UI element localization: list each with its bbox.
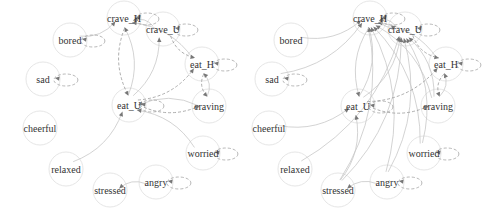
edge-craving-to-eat_U: [138, 98, 198, 106]
node-label-bored: bored: [280, 35, 303, 46]
node-label-angry: angry: [376, 177, 399, 188]
arrowhead-icon: [157, 38, 161, 43]
node-label-crave_H: crave_H: [353, 13, 387, 24]
node-label-eat_U: eat_U: [117, 100, 142, 111]
edge-eat_U-to-crave_U: [133, 38, 159, 96]
arrowhead-icon: [119, 112, 123, 117]
edge-craving-to-crave_U: [409, 38, 434, 97]
self-loop-sad: [54, 74, 78, 86]
node-label-craving: craving: [194, 101, 224, 112]
node-label-crave_H: crave_H: [107, 13, 141, 24]
edge-relaxed-to-crave_U: [301, 36, 399, 161]
node-label-crave_U: crave_U: [146, 24, 181, 35]
edge-eat_U-to-crave_H: [359, 27, 372, 96]
edge-eat_U-to-crave_U: [363, 37, 400, 97]
node-label-craving: craving: [423, 101, 453, 112]
edge-eat_U-to-eat_H: [138, 69, 194, 100]
arrowhead-icon: [204, 73, 209, 78]
self-loop-eat_U: [140, 100, 164, 112]
node-label-cheerful: cheerful: [24, 123, 57, 134]
node-label-sad: sad: [36, 74, 49, 85]
node-label-eat_H: eat_H: [434, 59, 458, 70]
node-label-bored: bored: [59, 35, 82, 46]
self-loop-eat_H: [457, 59, 481, 71]
edge-bored-to-crave_H: [79, 22, 115, 37]
node-label-worried: worried: [187, 148, 218, 159]
node-label-relaxed: relaxed: [280, 164, 309, 175]
network-diagram: crave_Hcrave_Uboredeat_Hsadeat_Ucravingc…: [0, 0, 489, 212]
node-label-cheerful: cheerful: [253, 123, 286, 134]
node-label-stressed: stressed: [322, 185, 354, 196]
node-label-stressed: stressed: [94, 185, 126, 196]
edge-angry-to-crave_H: [371, 27, 394, 172]
self-loop-angry: [167, 177, 191, 189]
node-label-crave_U: crave_U: [388, 24, 423, 35]
node-label-eat_U: eat_U: [346, 101, 371, 112]
edge-crave_U-to-eat_H: [413, 36, 439, 58]
node-label-angry: angry: [145, 177, 168, 188]
arrowhead-icon: [203, 92, 208, 97]
left-network-graph: crave_Hcrave_Uboredeat_Hsadeat_Ucravingc…: [23, 1, 238, 207]
edge-worried-to-eat_U: [137, 110, 195, 147]
edge-sad-to-crave_H: [281, 23, 362, 74]
edge-cheerful-to-eat_U: [279, 108, 349, 127]
edge-craving-to-eat_H: [204, 73, 210, 96]
arrowhead-icon: [396, 36, 400, 41]
node-label-worried: worried: [408, 148, 439, 159]
edge-crave_H-to-eat_U: [119, 28, 129, 95]
self-loop-sad: [283, 74, 307, 86]
node-label-relaxed: relaxed: [51, 164, 80, 175]
edge-craving-to-crave_H: [376, 25, 432, 98]
self-loop-eat_H: [213, 59, 237, 71]
edge-eat_U-to-craving: [368, 106, 428, 113]
edge-worried-to-crave_U: [406, 38, 427, 143]
node-label-eat_H: eat_H: [190, 59, 214, 70]
right-network-graph: crave_Hcrave_Uboredeat_Hsadeat_Ucravingc…: [252, 1, 481, 207]
edge-crave_H-to-eat_U: [355, 28, 368, 97]
edge-relaxed-to-eat_U: [73, 112, 122, 162]
node-label-sad: sad: [265, 74, 278, 85]
self-loop-angry: [398, 177, 422, 189]
edge-eat_U-to-crave_H: [125, 27, 135, 94]
